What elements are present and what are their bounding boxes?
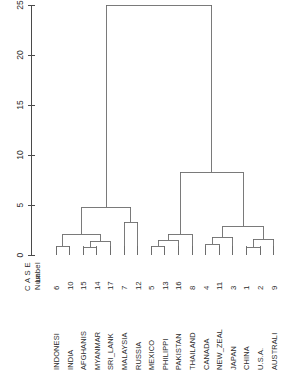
leaf-num-group: 6101514177125131684113129 bbox=[52, 281, 279, 290]
header-num-row: Num bbox=[33, 273, 42, 290]
leaf-label: NEW_ZEAL bbox=[215, 329, 224, 370]
dendrogram-figure: 0510152025 C A S E Label Num INDONESIIND… bbox=[0, 0, 303, 375]
y-axis-tick-label: 25 bbox=[15, 0, 25, 10]
leaf-label: AFGHANIS bbox=[79, 331, 88, 370]
dendrogram-plot: 0510152025 C A S E Label Num INDONESIIND… bbox=[0, 0, 303, 375]
leaf-num: 16 bbox=[174, 281, 183, 290]
y-axis-group: 0510152025 bbox=[15, 0, 35, 257]
leaf-label: AUSTRALI bbox=[270, 333, 279, 370]
leaf-num: 1 bbox=[242, 286, 251, 290]
leaf-num: 6 bbox=[52, 286, 61, 290]
leaf-num: 15 bbox=[79, 281, 88, 290]
leaf-label: RUSSIA bbox=[134, 342, 143, 370]
leaf-label: SRI_LANK bbox=[106, 333, 115, 370]
y-axis-tick-label: 10 bbox=[15, 150, 25, 160]
leaf-num: 10 bbox=[66, 281, 75, 290]
y-axis-tick-label: 0 bbox=[15, 252, 25, 257]
leaf-num: 9 bbox=[270, 286, 279, 290]
leaf-num: 11 bbox=[215, 282, 224, 290]
leaf-label: PAKISTAN bbox=[174, 333, 183, 370]
leaf-num: 17 bbox=[106, 281, 115, 290]
leaf-label: THAILAND bbox=[188, 332, 197, 370]
y-axis-tick-label: 5 bbox=[15, 202, 25, 207]
leaf-label: CHINA bbox=[242, 346, 251, 370]
leaf-num: 14 bbox=[93, 281, 102, 290]
leaf-label: INDONESI bbox=[52, 333, 61, 370]
leaf-num: 4 bbox=[202, 285, 211, 290]
leaf-num: 5 bbox=[147, 285, 156, 290]
leaf-label: U.S.A. bbox=[256, 348, 265, 370]
y-axis-tick-label: 15 bbox=[15, 100, 25, 110]
leaf-num: 7 bbox=[120, 286, 129, 290]
leaf-label: MALAYSIA bbox=[120, 332, 129, 370]
leaf-label: PHILIPPI bbox=[161, 338, 170, 370]
leaf-num: 3 bbox=[229, 286, 238, 290]
leaf-num: 2 bbox=[256, 286, 265, 290]
table-header-group: C A S E Label Num bbox=[23, 262, 42, 291]
header-case-label: C A S E bbox=[23, 262, 32, 291]
leaf-label: CANADA bbox=[202, 338, 211, 370]
leaf-label: MYANMAR bbox=[93, 332, 102, 370]
y-axis-tick-label: 20 bbox=[15, 50, 25, 60]
leaf-label-group: INDONESIINDIAAFGHANISMYANMARSRI_LANKMALA… bbox=[52, 329, 279, 370]
leaf-label: MEXICO bbox=[147, 340, 156, 370]
leaf-num: 8 bbox=[188, 286, 197, 290]
leaf-num: 12 bbox=[134, 281, 143, 290]
y-axis-tick-labels: 0510152025 bbox=[15, 0, 25, 257]
leaf-label: INDIA bbox=[66, 350, 75, 370]
leaf-label: JAPAN bbox=[229, 346, 238, 370]
leaf-num: 13 bbox=[161, 281, 170, 290]
dendrogram-links bbox=[56, 5, 274, 255]
